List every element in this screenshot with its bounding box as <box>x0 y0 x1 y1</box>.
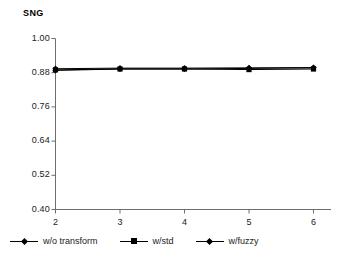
chart-figure: SNG 1.000.880.760.640.520.40 23456 w/o t… <box>0 0 353 257</box>
legend-marker-icon <box>120 236 148 246</box>
legend-item[interactable]: w/std <box>120 236 174 246</box>
legend-item[interactable]: w/fuzzy <box>196 236 259 246</box>
x-axis-tick-labels: 23456 <box>0 0 353 257</box>
x-axis-tick-label: 2 <box>44 217 68 227</box>
x-axis-tick-label: 5 <box>237 217 261 227</box>
legend-item-label: w/fuzzy <box>229 236 259 246</box>
chart-legend: w/o transformw/stdw/fuzzy <box>10 233 281 249</box>
legend-item-label: w/std <box>153 236 174 246</box>
x-axis-tick-label: 3 <box>108 217 132 227</box>
legend-marker-icon <box>196 236 224 246</box>
x-axis-tick-label: 6 <box>302 217 326 227</box>
legend-marker-icon <box>10 236 38 246</box>
legend-item-label: w/o transform <box>43 236 98 246</box>
legend-item[interactable]: w/o transform <box>10 236 98 246</box>
x-axis-tick-label: 4 <box>173 217 197 227</box>
